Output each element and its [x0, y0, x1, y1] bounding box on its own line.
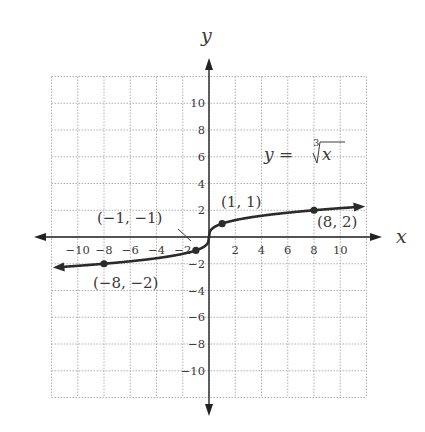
x-tick-label: 8: [310, 243, 317, 257]
x-tick-label: 4: [258, 243, 265, 257]
x-axis-label: x: [396, 225, 407, 247]
equation-label: y = 3 x: [263, 137, 345, 164]
x-tick-label: 2: [232, 243, 239, 257]
x-axis-arrow-right-icon: [370, 233, 382, 241]
x-axis-arrow-left-icon: [34, 233, 46, 241]
x-tick-label: −4: [148, 243, 165, 257]
radicand: x: [322, 144, 332, 164]
x-tick-label: −8: [96, 243, 113, 257]
y-tick-label: −4: [188, 284, 205, 298]
data-point: [100, 260, 107, 267]
data-point: [192, 247, 199, 254]
y-tick-label: 8: [198, 123, 205, 137]
curve-arrow-right-icon: [353, 202, 365, 211]
y-axis-arrow-up-icon: [205, 58, 213, 70]
y-tick-label: 10: [190, 96, 205, 110]
equation-lhs: y =: [263, 144, 293, 164]
y-tick-label: 6: [198, 150, 205, 164]
point-label-neg8-neg2: (−8, −2): [93, 274, 158, 292]
x-tick-label: −6: [122, 243, 139, 257]
x-tick-label: 6: [284, 243, 291, 257]
point-label-8-2: (8, 2): [317, 213, 357, 231]
cube-root-graph: −10−8−6−4−2246810108642−2−4−6−8−10 x y y…: [0, 0, 425, 432]
radical-index: 3: [313, 137, 319, 148]
data-point: [219, 220, 226, 227]
y-tick-label: −10: [181, 364, 205, 378]
y-axis-label: y: [200, 24, 212, 46]
leader-line: [178, 229, 191, 241]
y-tick-label: 4: [198, 177, 205, 191]
point-label-neg1-neg1: (−1, −1): [97, 209, 162, 227]
y-tick-label: 2: [198, 203, 205, 217]
x-tick-label: −10: [66, 243, 90, 257]
y-tick-label: −6: [188, 310, 205, 324]
y-tick-label: −2: [188, 257, 205, 271]
point-label-1-1: (1, 1): [221, 193, 261, 211]
y-axis-arrow-down-icon: [205, 404, 213, 416]
y-tick-label: −8: [188, 337, 205, 351]
x-tick-label: 10: [333, 243, 348, 257]
